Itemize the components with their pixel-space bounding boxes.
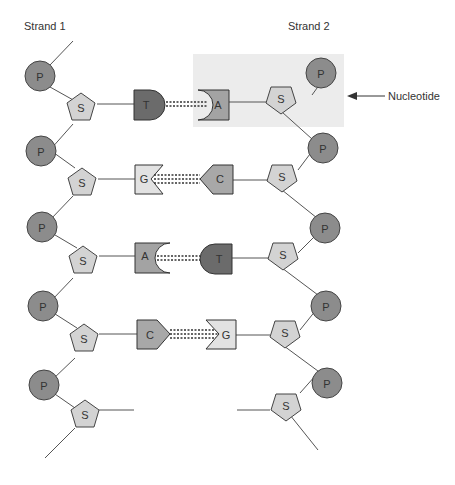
phosphate-icon: P xyxy=(306,58,336,88)
strand2-label: Strand 2 xyxy=(288,20,330,32)
svg-text:P: P xyxy=(37,146,44,158)
sugar-icon: S xyxy=(270,321,300,348)
svg-text:G: G xyxy=(140,173,149,185)
svg-text:T: T xyxy=(216,253,223,265)
svg-text:P: P xyxy=(40,380,47,392)
base-T-right: T xyxy=(200,244,232,274)
hydrogen-bonds xyxy=(154,175,200,183)
strand1-sugars: S S S S S xyxy=(67,93,99,427)
base-pair-4: C G xyxy=(137,320,236,349)
svg-text:G: G xyxy=(222,329,231,341)
hydrogen-bonds xyxy=(157,256,200,260)
hydrogen-bonds xyxy=(170,330,219,338)
svg-text:P: P xyxy=(319,143,326,155)
base-C-right: C xyxy=(200,165,233,194)
svg-text:C: C xyxy=(216,173,224,185)
phosphate-icon: P xyxy=(27,212,57,242)
base-pair-1: T A xyxy=(134,90,229,120)
svg-text:P: P xyxy=(39,301,46,313)
phosphate-icon: P xyxy=(308,133,338,163)
strand2-sugars: S S S S S xyxy=(266,87,301,421)
sugar-icon: S xyxy=(69,246,97,273)
phosphate-icon: P xyxy=(29,370,59,400)
sugar-icon: S xyxy=(70,324,98,351)
glycosidic-bonds xyxy=(97,102,270,335)
svg-text:P: P xyxy=(321,223,328,235)
svg-text:S: S xyxy=(278,171,285,183)
base-A-left: A xyxy=(135,243,170,273)
sugar-icon: S xyxy=(68,168,96,195)
base-C-left: C xyxy=(137,320,170,349)
arrow-left-icon xyxy=(347,92,385,100)
base-pair-2: G C xyxy=(135,165,233,194)
phosphate-icon: P xyxy=(25,61,55,91)
dna-diagram: Strand 1 Strand 2 Nucleotide xyxy=(0,0,455,485)
phosphate-icon: P xyxy=(310,213,340,243)
svg-text:S: S xyxy=(277,93,284,105)
svg-text:S: S xyxy=(78,177,85,189)
svg-text:A: A xyxy=(141,250,149,262)
svg-text:S: S xyxy=(79,255,86,267)
strand1-label: Strand 1 xyxy=(24,20,66,32)
svg-text:S: S xyxy=(81,409,88,421)
svg-text:T: T xyxy=(143,99,150,111)
svg-text:S: S xyxy=(80,333,87,345)
sugar-icon: S xyxy=(71,400,99,427)
phosphate-icon: P xyxy=(311,291,341,321)
base-T-left: T xyxy=(134,90,165,120)
svg-text:S: S xyxy=(282,400,289,412)
sugar-icon: S xyxy=(268,243,298,270)
sugar-icon: S xyxy=(67,93,95,120)
phosphate-icon: P xyxy=(312,368,342,398)
svg-text:P: P xyxy=(323,378,330,390)
strand1-phosphates: P P P P P xyxy=(25,61,59,400)
svg-text:S: S xyxy=(279,249,286,261)
svg-text:C: C xyxy=(146,329,154,341)
svg-text:P: P xyxy=(38,222,45,234)
phosphate-icon: P xyxy=(26,136,56,166)
svg-text:S: S xyxy=(77,102,84,114)
svg-text:S: S xyxy=(281,327,288,339)
svg-text:P: P xyxy=(322,301,329,313)
phosphate-icon: P xyxy=(28,291,58,321)
svg-text:A: A xyxy=(214,99,222,111)
base-pair-3: A T xyxy=(135,243,232,274)
sugar-icon: S xyxy=(271,394,301,421)
sugar-icon: S xyxy=(267,165,297,192)
svg-text:P: P xyxy=(317,68,324,80)
nucleotide-label: Nucleotide xyxy=(388,90,440,102)
svg-text:P: P xyxy=(36,71,43,83)
